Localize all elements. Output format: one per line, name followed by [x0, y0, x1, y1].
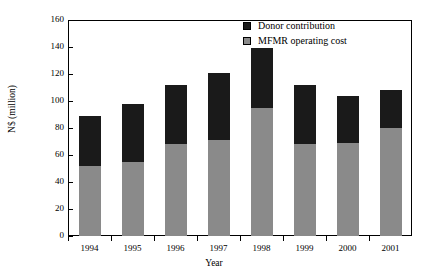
bar-2000 — [337, 20, 359, 236]
bar-segment-operating-cost — [122, 162, 144, 236]
x-axis-tick-label: 1998 — [240, 243, 284, 253]
x-axis-tick-mark — [111, 236, 112, 241]
x-axis-tick-label: 1996 — [154, 243, 198, 253]
x-axis-tick-mark — [68, 236, 69, 241]
legend-swatch-icon — [243, 22, 251, 30]
bar-segment-operating-cost — [380, 128, 402, 236]
bar-1994 — [79, 20, 101, 236]
legend-item: Donor contribution — [243, 19, 347, 33]
bar-segment-operating-cost — [337, 143, 359, 236]
bar-segment-operating-cost — [294, 144, 316, 236]
x-axis-tick-mark — [283, 236, 284, 241]
bar-1996 — [165, 20, 187, 236]
bar-1995 — [122, 20, 144, 236]
legend-item: MFMR operating cost — [243, 34, 347, 48]
bars-layer — [68, 20, 412, 236]
bar-1997 — [208, 20, 230, 236]
bar-segment-donor-contribution — [165, 85, 187, 144]
y-axis-tick-label: 60 — [0, 150, 64, 159]
bar-segment-operating-cost — [79, 166, 101, 236]
bar-segment-donor-contribution — [79, 116, 101, 166]
legend-swatch-icon — [243, 37, 251, 45]
bar-segment-donor-contribution — [337, 96, 359, 143]
legend-item-label: MFMR operating cost — [258, 34, 347, 48]
bar-segment-donor-contribution — [380, 90, 402, 128]
x-axis-tick-mark — [154, 236, 155, 241]
bar-1999 — [294, 20, 316, 236]
y-axis-tick-label: 140 — [0, 42, 64, 51]
x-axis-tick-label: 1999 — [283, 243, 327, 253]
bar-segment-operating-cost — [165, 144, 187, 236]
x-axis-tick-mark — [197, 236, 198, 241]
bar-segment-operating-cost — [251, 108, 273, 236]
legend-item-label: Donor contribution — [258, 19, 335, 33]
y-axis-tick-label: 40 — [0, 177, 64, 186]
x-axis-tick-label: 2000 — [326, 243, 370, 253]
y-axis-tick-label: 0 — [0, 231, 64, 240]
bar-segment-donor-contribution — [122, 104, 144, 162]
bar-segment-donor-contribution — [294, 85, 316, 144]
x-axis-tick-label: 1997 — [197, 243, 241, 253]
y-axis-tick-label: 120 — [0, 69, 64, 78]
x-axis-tick-mark — [369, 236, 370, 241]
x-axis-title: Year — [0, 258, 428, 268]
y-axis-tick-label: 160 — [0, 15, 64, 24]
x-axis-tick-mark — [326, 236, 327, 241]
bar-segment-donor-contribution — [208, 73, 230, 141]
x-axis-tick-label: 1994 — [68, 243, 112, 253]
x-axis-tick-mark — [240, 236, 241, 241]
bar-1998 — [251, 20, 273, 236]
bar-segment-operating-cost — [208, 140, 230, 236]
bar-chart: N$ (million) 020406080100120140160 19941… — [0, 0, 428, 276]
chart-legend: Donor contributionMFMR operating cost — [243, 19, 347, 49]
bar-2001 — [380, 20, 402, 236]
bar-segment-donor-contribution — [251, 48, 273, 107]
y-axis-tick-label: 100 — [0, 96, 64, 105]
x-axis-tick-label: 1995 — [111, 243, 155, 253]
y-axis-tick-label: 80 — [0, 123, 64, 132]
x-axis-tick-label: 2001 — [369, 243, 413, 253]
y-axis-tick-label: 20 — [0, 204, 64, 213]
